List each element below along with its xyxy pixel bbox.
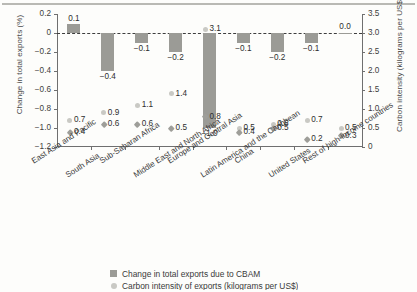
bar-value-label: −0.1 [294,44,328,53]
legend-item-bars: Change in total exports due to CBAM [110,268,298,279]
scatter-value-label: 0.2 [311,134,322,143]
left-tick [54,90,57,91]
left-tick [54,128,57,129]
chart-legend: Change in total exports due to CBAM Carb… [110,268,298,292]
left-tick-label: −0.4 [21,67,51,75]
legend-label-points: Carbon intensity of exports (kilograms p… [122,281,298,290]
bar-value-label: −0.2 [159,53,193,62]
left-tick [54,109,57,110]
bar [305,33,318,43]
scatter-value-label: 0.5 [176,123,187,132]
scatter-point-circle [203,27,208,32]
scatter-point-diamond [168,125,174,131]
bar [237,33,250,43]
bar [101,33,114,71]
right-tick [362,52,365,53]
right-tick-label: 3.5 [368,10,394,18]
right-tick [362,147,365,148]
right-tick [362,33,365,34]
bar [339,33,352,34]
right-tick-label: 0.5 [368,124,394,132]
bar-value-label: −0.4 [91,72,125,81]
scatter-point-diamond [101,121,107,127]
bar-value-label: −0.2 [260,53,294,62]
bar [169,33,182,52]
scatter-point-circle [169,91,174,96]
bar [67,24,80,34]
right-tick-label: 2.5 [368,48,394,56]
right-tick-label: 3.0 [368,29,394,37]
scatter-point-circle [305,118,310,123]
scatter-value-label: 1.4 [176,89,187,98]
left-tick [54,52,57,53]
right-axis-title: Carbon intensity (kilograms per US$) [395,0,404,148]
category-labels: East Asia and PacificSouth AsiaSub-Sahar… [0,150,417,255]
right-tick [362,109,365,110]
right-tick [362,14,365,15]
scatter-value-label: 3.1 [210,24,221,33]
category-label: South Asia [64,151,101,179]
scatter-value-label: 0.6 [108,119,119,128]
scatter-point-diamond [304,136,310,142]
legend-item-points: Carbon intensity of exports (kilograms p… [110,281,298,290]
left-tick [54,71,57,72]
bar-value-label: −0.1 [125,44,159,53]
right-tick-label: 2.0 [368,67,394,75]
scatter-point-circle [67,118,72,123]
left-tick-label: −0.2 [21,48,51,56]
scatter-point-circle [101,110,106,115]
left-tick-label: −1.0 [21,124,51,132]
bar-value-label: 0.1 [57,14,91,23]
left-tick-label: 0.2 [21,10,51,18]
scatter-point-diamond [135,121,141,127]
scatter-value-label: 1.1 [142,100,153,109]
bar [271,33,284,52]
bar-value-label: −0.1 [226,44,260,53]
right-tick [362,90,365,91]
scatter-point-circle [135,103,140,108]
left-tick-label: −0.8 [21,105,51,113]
right-tick-label: 1.5 [368,86,394,94]
left-tick-label: −0.6 [21,86,51,94]
right-tick [362,71,365,72]
circle-swatch-icon [111,283,117,289]
left-tick-label: 0 [21,29,51,37]
bar-swatch-icon [110,270,117,277]
bar-value-label: 0.0 [328,22,362,31]
scatter-value-label: 0.4 [243,127,254,136]
scatter-value-label: 0.7 [311,115,322,124]
scatter-value-label: 0.9 [108,108,119,117]
bar [135,33,148,43]
top-divider-rule [2,3,415,5]
legend-label-bars: Change in total exports due to CBAM [122,269,260,279]
